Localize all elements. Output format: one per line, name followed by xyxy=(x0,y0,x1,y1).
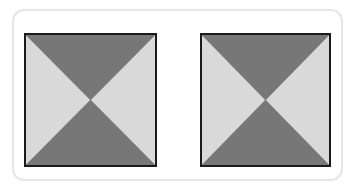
hourglass-pattern-icon xyxy=(202,35,329,165)
hourglass-pattern-icon xyxy=(26,35,155,165)
left-square-hourglass xyxy=(24,33,157,167)
right-square-hourglass xyxy=(200,33,331,167)
